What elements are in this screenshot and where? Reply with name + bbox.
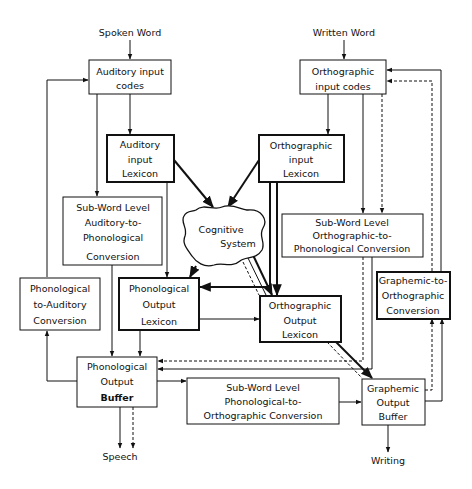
svg-text:Auditory input: Auditory input <box>96 66 164 77</box>
svg-text:Phonological: Phonological <box>30 283 90 294</box>
writing-label: Writing <box>371 455 405 466</box>
svg-text:Cognitive: Cognitive <box>199 224 244 235</box>
svg-text:codes: codes <box>116 80 144 91</box>
written-word-label: Written Word <box>313 27 375 38</box>
svg-text:to-Auditory: to-Auditory <box>33 299 87 310</box>
svg-text:Buffer: Buffer <box>379 411 408 422</box>
node-auditory-input-lexicon: Auditory input Lexicon <box>107 135 174 182</box>
svg-text:Buffer: Buffer <box>101 392 134 403</box>
svg-text:Output: Output <box>143 299 176 310</box>
node-phonological-to-auditory: Phonological to-Auditory Conversion <box>20 278 100 330</box>
node-phonological-output-buffer: Phonological Output Buffer <box>77 357 157 407</box>
svg-text:Orthographic: Orthographic <box>270 140 333 151</box>
node-subword-orthographic-to-phonological: Sub-Word Level Orthographic-to- Phonolog… <box>282 214 423 257</box>
svg-text:System: System <box>220 238 255 249</box>
node-orthographic-input-lexicon: Orthographic input Lexicon <box>259 135 344 182</box>
node-graphemic-output-buffer: Graphemic Output Buffer <box>362 379 425 425</box>
svg-text:Lexicon: Lexicon <box>282 329 318 340</box>
svg-text:input: input <box>289 154 314 165</box>
svg-text:Phonological Conversion: Phonological Conversion <box>294 243 410 254</box>
spoken-word-label: Spoken Word <box>99 27 161 38</box>
svg-text:input: input <box>128 154 153 165</box>
svg-text:Phonological-to-: Phonological-to- <box>225 396 302 407</box>
svg-text:Sub-Word Level: Sub-Word Level <box>315 217 389 228</box>
svg-text:Output: Output <box>101 376 134 387</box>
svg-text:Lexicon: Lexicon <box>283 168 319 179</box>
svg-text:Orthographic: Orthographic <box>382 290 445 301</box>
svg-text:Phonological: Phonological <box>83 232 143 243</box>
svg-text:input codes: input codes <box>315 81 370 92</box>
svg-text:Conversion: Conversion <box>386 305 439 316</box>
svg-text:Phonological: Phonological <box>87 361 147 372</box>
svg-text:Output: Output <box>377 397 410 408</box>
svg-text:Graphemic-to-: Graphemic-to- <box>379 275 448 286</box>
node-subword-phonological-to-orthographic: Sub-Word Level Phonological-to- Orthogra… <box>187 378 339 424</box>
svg-text:Orthographic Conversion: Orthographic Conversion <box>204 410 323 421</box>
speech-label: Speech <box>103 451 138 462</box>
node-cognitive-system: Cognitive System <box>183 206 265 266</box>
svg-text:Sub-Word Level: Sub-Word Level <box>76 202 150 213</box>
node-orthographic-input-codes: Orthographic input codes <box>300 60 386 94</box>
svg-text:Orthographic: Orthographic <box>269 300 332 311</box>
svg-text:Auditory-to-: Auditory-to- <box>85 217 142 228</box>
svg-text:Orthographic: Orthographic <box>312 66 375 77</box>
svg-text:Sub-Word Level: Sub-Word Level <box>226 382 300 393</box>
svg-text:Conversion: Conversion <box>33 315 86 326</box>
svg-text:Phonological: Phonological <box>129 283 189 294</box>
node-graphemic-to-orthographic: Graphemic-to- Orthographic Conversion <box>377 272 450 319</box>
node-auditory-input-codes: Auditory input codes <box>89 60 171 94</box>
svg-text:Auditory: Auditory <box>120 139 161 150</box>
svg-text:Lexicon: Lexicon <box>122 168 158 179</box>
svg-text:Lexicon: Lexicon <box>141 316 177 327</box>
svg-text:Conversion: Conversion <box>86 251 139 262</box>
svg-text:Output: Output <box>284 315 317 326</box>
svg-text:Graphemic: Graphemic <box>367 383 419 394</box>
svg-text:Orthographic-to-: Orthographic-to- <box>312 230 391 241</box>
cognitive-model-diagram: Spoken Word Written Word Speech Writing … <box>0 0 472 489</box>
node-subword-auditory-to-phonological: Sub-Word Level Auditory-to- Phonological… <box>63 197 162 265</box>
node-orthographic-output-lexicon: Orthographic Output Lexicon <box>260 296 341 342</box>
node-phonological-output-lexicon: Phonological Output Lexicon <box>119 278 199 330</box>
